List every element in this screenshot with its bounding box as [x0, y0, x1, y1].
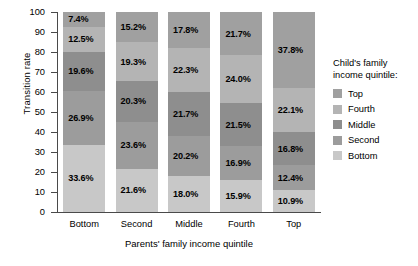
y-tick-mark	[51, 152, 57, 153]
y-tick-mark	[51, 12, 57, 13]
bar-segment-bottom[interactable]: 21.6%	[116, 169, 158, 212]
bar-segment-second[interactable]: 20.2%	[168, 136, 210, 176]
y-tick-label: 50	[0, 107, 45, 117]
bar-bottom[interactable]: 7.4%12.5%19.6%26.9%33.6%	[63, 12, 105, 212]
bar-segment-value: 17.8%	[168, 25, 198, 35]
bar-second[interactable]: 15.2%19.3%20.3%23.6%21.6%	[116, 12, 158, 212]
bar-segment-bottom[interactable]: 15.9%	[220, 180, 262, 212]
legend-title-line1: Child's family	[333, 58, 387, 68]
y-tick-mark	[51, 112, 57, 113]
bar-segment-value: 21.7%	[168, 109, 198, 119]
y-tick-label: 90	[0, 27, 45, 37]
bar-segment-second[interactable]: 16.9%	[220, 146, 262, 180]
legend-swatch-icon	[333, 105, 342, 114]
bar-segment-middle[interactable]: 16.8%	[273, 132, 315, 166]
bar-segment-value: 10.9%	[273, 196, 303, 206]
y-tick-label: 60	[0, 87, 45, 97]
bar-segment-fourth[interactable]: 12.5%	[63, 27, 105, 52]
y-tick-label: 100	[0, 7, 45, 17]
x-tick-label-top: Top	[268, 219, 320, 229]
legend-item-bottom[interactable]: Bottom	[333, 148, 418, 164]
y-tick-label: 20	[0, 167, 45, 177]
bar-segment-value: 24.0%	[220, 74, 250, 84]
bar-segment-value: 18.0%	[168, 189, 198, 199]
y-tick-mark	[51, 52, 57, 53]
bar-segment-value: 22.1%	[273, 105, 303, 115]
bar-segment-top[interactable]: 7.4%	[63, 12, 105, 27]
bar-segment-value: 12.5%	[63, 34, 93, 44]
bar-segment-value: 23.6%	[116, 140, 146, 150]
x-tick-label-bottom: Bottom	[58, 219, 110, 229]
bar-segment-middle[interactable]: 19.6%	[63, 52, 105, 91]
legend-swatch-icon	[333, 89, 342, 98]
plot-area: 7.4%12.5%19.6%26.9%33.6%15.2%19.3%20.3%2…	[58, 12, 320, 212]
bar-segment-value: 19.6%	[63, 66, 93, 76]
bar-segment-value: 15.9%	[220, 191, 250, 201]
bar-segment-second[interactable]: 12.4%	[273, 165, 315, 190]
legend-swatch-icon	[333, 136, 342, 145]
bar-segment-value: 16.9%	[220, 158, 250, 168]
bar-middle[interactable]: 17.8%22.3%21.7%20.2%18.0%	[168, 12, 210, 212]
legend-item-label: Bottom	[348, 151, 377, 161]
legend-item-second[interactable]: Second	[333, 133, 418, 149]
bar-segment-value: 16.8%	[273, 144, 303, 154]
x-tick-label-fourth: Fourth	[215, 219, 267, 229]
stacked-bar-chart: Transition rate 1009080706050403020100 7…	[0, 0, 418, 266]
chart-legend: Child's family income quintile: TopFourt…	[333, 58, 418, 164]
bar-segment-bottom[interactable]: 10.9%	[273, 190, 315, 212]
y-tick-mark	[51, 72, 57, 73]
bar-segment-value: 20.2%	[168, 151, 198, 161]
bar-fourth[interactable]: 21.7%24.0%21.5%16.9%15.9%	[220, 12, 262, 212]
bar-segment-top[interactable]: 17.8%	[168, 12, 210, 48]
legend-item-top[interactable]: Top	[333, 86, 418, 102]
bar-segment-value: 19.3%	[116, 57, 146, 67]
y-tick-mark	[51, 92, 57, 93]
bar-segment-second[interactable]: 23.6%	[116, 122, 158, 169]
y-tick-label: 0	[0, 207, 45, 217]
legend-item-label: Top	[348, 89, 363, 99]
bar-segment-middle[interactable]: 21.7%	[168, 92, 210, 135]
bar-segment-value: 15.2%	[116, 22, 146, 32]
y-tick-mark	[51, 172, 57, 173]
bar-segment-top[interactable]: 15.2%	[116, 12, 158, 42]
bar-segment-top[interactable]: 37.8%	[273, 12, 315, 88]
y-tick-mark	[51, 192, 57, 193]
y-tick-label: 40	[0, 127, 45, 137]
legend-item-list: TopFourthMiddleSecondBottom	[333, 86, 418, 164]
x-axis-title: Parents' family income quintile	[58, 238, 320, 249]
legend-item-label: Second	[348, 135, 380, 145]
legend-title-line2: income quintile:	[333, 70, 398, 80]
bar-segment-fourth[interactable]: 19.3%	[116, 42, 158, 81]
bar-segment-second[interactable]: 26.9%	[63, 91, 105, 145]
bar-segment-value: 21.6%	[116, 185, 146, 195]
x-axis-line	[52, 212, 321, 213]
bar-top[interactable]: 37.8%22.1%16.8%12.4%10.9%	[273, 12, 315, 212]
y-tick-label: 70	[0, 67, 45, 77]
bar-segment-bottom[interactable]: 33.6%	[63, 145, 105, 212]
y-tick-mark	[51, 32, 57, 33]
y-tick-label: 10	[0, 187, 45, 197]
bar-segment-value: 7.4%	[63, 14, 88, 24]
bar-segment-fourth[interactable]: 22.3%	[168, 48, 210, 93]
legend-item-fourth[interactable]: Fourth	[333, 102, 418, 118]
bar-segment-fourth[interactable]: 22.1%	[273, 88, 315, 132]
legend-title: Child's family income quintile:	[333, 58, 418, 81]
legend-item-middle[interactable]: Middle	[333, 117, 418, 133]
bar-segment-value: 33.6%	[63, 173, 93, 183]
bar-segment-fourth[interactable]: 24.0%	[220, 55, 262, 103]
bar-segment-middle[interactable]: 20.3%	[116, 81, 158, 122]
legend-swatch-icon	[333, 120, 342, 129]
y-axis-tick-labels: 1009080706050403020100	[0, 0, 48, 266]
legend-swatch-icon	[333, 151, 342, 160]
y-tick-label: 30	[0, 147, 45, 157]
legend-item-label: Fourth	[348, 104, 375, 114]
x-tick-label-second: Second	[110, 219, 162, 229]
x-tick-label-middle: Middle	[163, 219, 215, 229]
y-tick-label: 80	[0, 47, 45, 57]
bar-segment-middle[interactable]: 21.5%	[220, 103, 262, 146]
bar-segment-value: 12.4%	[273, 173, 303, 183]
bar-segment-bottom[interactable]: 18.0%	[168, 176, 210, 212]
bar-segment-top[interactable]: 21.7%	[220, 12, 262, 55]
bar-segment-value: 22.3%	[168, 65, 198, 75]
y-tick-mark	[51, 132, 57, 133]
